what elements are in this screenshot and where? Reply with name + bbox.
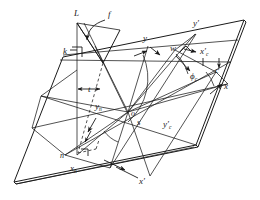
label-x-n: xn [69, 163, 77, 174]
label-x-prime-c: x′c [199, 46, 209, 57]
label-L: L [73, 8, 79, 18]
label-y-prime: y′ [192, 18, 200, 28]
figure-canvas: L f k t y y′ w x′c c ϕc x o s yn n xn x′… [0, 0, 260, 200]
label-c: c [215, 65, 219, 75]
label-x: x [223, 81, 228, 91]
label-o: o [131, 109, 135, 118]
label-y-n: yn [94, 101, 102, 112]
label-s: s [137, 117, 141, 127]
label-f: f [108, 9, 112, 19]
right-angle-marks [72, 46, 192, 156]
label-n: n [60, 151, 64, 160]
label-w: w [170, 43, 176, 53]
label-y: y [142, 33, 147, 43]
triangle-L [77, 23, 120, 63]
label-phi-c: ϕc [190, 71, 198, 82]
label-x-prime: x′ [138, 176, 146, 186]
plane-parallelogram [14, 20, 246, 184]
label-y-prime-c: y′c [162, 119, 172, 130]
geometry-diagram: L f k t y y′ w x′c c ϕc x o s yn n xn x′… [0, 0, 260, 200]
